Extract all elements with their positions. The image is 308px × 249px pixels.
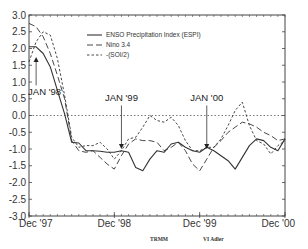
y-tick-label: -2.5: [9, 194, 27, 205]
enso-index-chart: 3.02.52.01.51.00.50.0-0.5-1.0-1.5-2.0-2.…: [0, 0, 308, 249]
legend-label: -(SOI/2): [106, 51, 129, 59]
y-tick-label: 3.0: [12, 10, 26, 21]
series-lines: [29, 23, 285, 170]
annotations: JAN '98JAN '99JAN '00: [28, 57, 223, 149]
legend: ENSO Precipitation Index (ESPI)Nino 3.4-…: [87, 31, 201, 59]
credit-author: VI Adler: [203, 236, 224, 242]
legend-label: Nino 3.4: [106, 41, 131, 48]
credit-trmm: TRMM: [150, 236, 169, 242]
x-tick-label: Dec '00: [261, 218, 295, 229]
x-tick-label: Dec '98: [98, 218, 132, 229]
x-tick-label: Dec '99: [183, 218, 217, 229]
y-tick-label: 0.5: [12, 93, 26, 104]
y-tick-label: 2.5: [12, 26, 26, 37]
annotation-arrowhead: [34, 57, 39, 62]
annotation-label: JAN '99: [105, 92, 138, 103]
y-tick-label: -2.0: [9, 177, 27, 188]
annotation-label: JAN '00: [190, 92, 223, 103]
y-tick-label: 2.0: [12, 43, 26, 54]
series-line-neg-soi-half: [29, 32, 285, 159]
y-tick-label: 1.5: [12, 60, 26, 71]
y-tick-label: 0.0: [12, 110, 26, 121]
series-line-nino34: [29, 23, 285, 170]
y-tick-label: -1.5: [9, 160, 27, 171]
annotation-label: JAN '98: [28, 86, 61, 97]
axes: 3.02.52.01.51.00.50.0-0.5-1.0-1.5-2.0-2.…: [9, 10, 296, 230]
x-tick-label: Dec '97: [19, 218, 53, 229]
y-tick-label: 1.0: [12, 77, 26, 88]
y-tick-label: -0.5: [9, 127, 27, 138]
legend-label: ENSO Precipitation Index (ESPI): [106, 31, 201, 39]
y-tick-label: -1.0: [9, 144, 27, 155]
series-line-espi: [29, 47, 285, 171]
